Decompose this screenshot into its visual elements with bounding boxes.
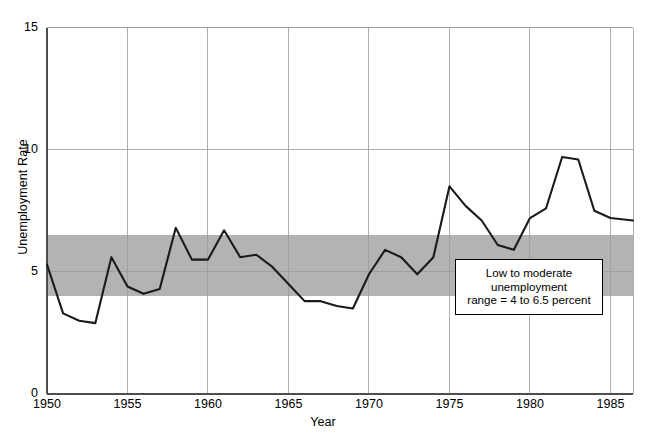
x-tick-label: 1950 — [17, 397, 77, 411]
annotation-line-2: unemployment — [460, 280, 598, 294]
axis-lines — [47, 28, 633, 395]
annotation-box: Low to moderate unemployment range = 4 t… — [455, 259, 603, 315]
x-tick-label: 1965 — [258, 397, 318, 411]
x-tick-label: 1980 — [500, 397, 560, 411]
unemployment-rate-chart: 051015 19501955196019651970197519801985 … — [0, 0, 646, 439]
x-tick-label: 1955 — [97, 397, 157, 411]
y-axis-label: Unemployment Rate — [16, 127, 30, 267]
annotation-line-3: range = 4 to 6.5 percent — [460, 293, 598, 307]
gridlines — [47, 28, 633, 395]
x-tick-label: 1985 — [580, 397, 640, 411]
plot-canvas — [0, 0, 646, 439]
x-axis-label: Year — [0, 415, 646, 429]
x-tick-label: 1960 — [178, 397, 238, 411]
x-tick-label: 1975 — [419, 397, 479, 411]
x-tick-label: 1970 — [339, 397, 399, 411]
y-tick-label: 15 — [8, 20, 38, 34]
annotation-line-1: Low to moderate — [460, 266, 598, 280]
